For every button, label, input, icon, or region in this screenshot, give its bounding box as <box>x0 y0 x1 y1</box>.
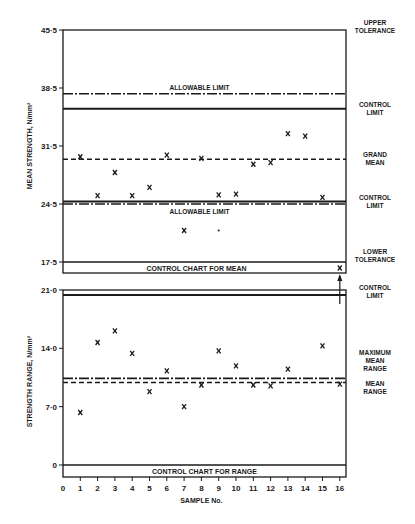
data-point-x <box>165 153 169 158</box>
y-tick-label: 45·5 <box>41 26 58 35</box>
right-annotation-label: MEAN <box>365 159 384 166</box>
data-point-x <box>78 410 82 415</box>
data-point-x <box>234 192 238 197</box>
range-y-axis-label: STRENGTH RANGE, N/mm² <box>26 335 34 427</box>
data-point-x <box>217 348 221 353</box>
x-axis: 012345678910111213141516SAMPLE No. <box>61 477 345 504</box>
x-tick-label: 5 <box>147 484 152 493</box>
x-tick-label: 0 <box>61 484 66 493</box>
data-point-x <box>269 160 273 165</box>
y-tick-label: 0 <box>53 461 58 470</box>
x-tick-label: 6 <box>165 484 170 493</box>
right-annotation-label: TOLERANCE <box>355 256 396 263</box>
right-annotation-label: CONTROL <box>359 194 391 201</box>
right-annotation-label: LIMIT <box>367 202 384 209</box>
allowable-limit-lower-label: ALLOWABLE LIMIT <box>170 208 230 215</box>
data-point-x <box>321 195 325 200</box>
data-point-x <box>113 170 117 175</box>
range-control-chart: CONTROL CHART FOR RANGE07·014·021·0STREN… <box>26 284 391 477</box>
data-point-x <box>286 131 290 136</box>
right-annotation-label: CONTROL <box>359 284 391 291</box>
y-tick-label: 21·0 <box>41 286 58 295</box>
data-point-x <box>148 185 152 190</box>
right-annotation-label: MEAN <box>365 380 384 387</box>
right-annotation-label: TOLERANCE <box>355 27 396 34</box>
y-tick-label: 24·5 <box>41 200 58 209</box>
right-annotation-label: LIMIT <box>367 109 384 116</box>
y-tick-label: 17·5 <box>41 258 58 267</box>
data-point-x <box>148 389 152 394</box>
data-point-x <box>96 340 100 345</box>
data-point-x <box>130 193 134 198</box>
data-point-x <box>338 266 342 271</box>
data-point-x <box>199 156 203 161</box>
x-tick-label: 3 <box>113 484 118 493</box>
right-annotation-label: GRAND <box>363 151 387 158</box>
x-tick-label: 13 <box>283 484 292 493</box>
x-tick-label: 11 <box>249 484 258 493</box>
arrow-head-icon <box>337 274 342 281</box>
right-annotation-label: RANGE <box>363 365 387 372</box>
range-chart-title: CONTROL CHART FOR RANGE <box>152 468 257 475</box>
x-tick-label: 16 <box>335 484 344 493</box>
x-tick-label: 9 <box>216 484 221 493</box>
x-tick-label: 10 <box>232 484 241 493</box>
control-charts: CONTROL CHART FOR MEANALLOWABLE LIMITALL… <box>0 0 415 524</box>
allowable-limit-upper-label: ALLOWABLE LIMIT <box>170 84 230 91</box>
mean-chart-frame <box>63 30 346 273</box>
range-chart-frame <box>63 290 346 477</box>
x-tick-label: 2 <box>95 484 100 493</box>
x-axis-title: SAMPLE No. <box>180 497 222 504</box>
data-point-x <box>251 162 255 167</box>
x-tick-label: 4 <box>130 484 135 493</box>
mean-y-axis-label: MEAN STRENGTH, N/mm² <box>26 102 34 189</box>
data-point-x <box>165 368 169 373</box>
data-point-x <box>303 134 307 139</box>
right-annotation-label: MEAN <box>365 357 384 364</box>
y-tick-label: 38·5 <box>41 84 58 93</box>
y-tick-label: 31·5 <box>41 142 58 151</box>
right-annotation-label: CONTROL <box>359 101 391 108</box>
y-tick-label: 7·0 <box>45 403 57 412</box>
x-tick-label: 1 <box>78 484 83 493</box>
data-point-x <box>182 404 186 409</box>
x-tick-label: 12 <box>266 484 275 493</box>
right-annotation-label: RANGE <box>363 388 387 395</box>
x-tick-label: 15 <box>318 484 327 493</box>
data-point-x <box>286 367 290 372</box>
data-point-x <box>269 383 273 388</box>
data-point-x <box>217 192 221 197</box>
x-tick-label: 7 <box>182 484 187 493</box>
x-tick-label: 14 <box>301 484 310 493</box>
data-point-x <box>251 383 255 388</box>
right-annotation-label: LIMIT <box>367 292 384 299</box>
data-point-x <box>96 193 100 198</box>
data-point-x <box>182 228 186 233</box>
data-point-x <box>321 343 325 348</box>
y-tick-label: 14·0 <box>41 344 58 353</box>
mean-chart-title: CONTROL CHART FOR MEAN <box>146 265 246 272</box>
data-point-x <box>130 351 134 356</box>
right-annotation-label: UPPER <box>364 19 387 26</box>
right-annotation-label: LOWER <box>363 248 387 255</box>
right-annotation-label: MAXIMUM <box>359 349 391 356</box>
mean-control-chart: CONTROL CHART FOR MEANALLOWABLE LIMITALL… <box>26 19 396 273</box>
data-point-x <box>113 328 117 333</box>
x-tick-label: 8 <box>199 484 204 493</box>
data-point-dot <box>218 230 220 232</box>
data-point-x <box>234 363 238 368</box>
